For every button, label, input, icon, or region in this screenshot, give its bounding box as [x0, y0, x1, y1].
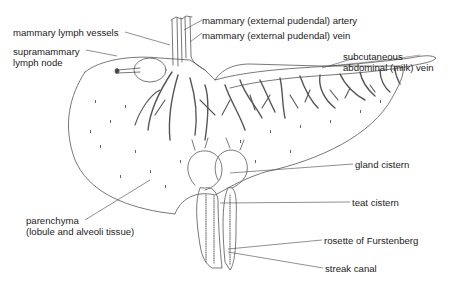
- lymph-node-shape: [134, 58, 166, 82]
- udder-outline: [68, 57, 403, 214]
- leader-lymph-node: [86, 50, 117, 56]
- label-streak-canal: streak canal: [325, 263, 377, 274]
- label-mammary-vein: mammary (external pudendal) vein: [202, 30, 350, 41]
- label-mammary-artery: mammary (external pudendal) artery: [202, 15, 357, 26]
- leader-teat-cistern: [220, 202, 350, 203]
- gland-cistern-left: [188, 151, 222, 190]
- label-mammary-lymph-vessels: mammary lymph vessels: [13, 27, 119, 38]
- leader-artery: [184, 20, 202, 30]
- label-gland-cistern: gland cistern: [355, 159, 409, 170]
- label-parenchyma: parenchyma (lobule and alveoli tissue): [26, 215, 134, 237]
- leader-vein: [190, 33, 202, 42]
- leader-streak-canal: [228, 252, 323, 268]
- vessel-trunk: [172, 17, 205, 70]
- leader-lymph-vessels: [125, 32, 170, 45]
- leader-rosette: [228, 240, 322, 249]
- label-teat-cistern: teat cistern: [352, 197, 399, 208]
- gland-cistern-right: [215, 150, 247, 188]
- label-milk-vein: subcutaneous abdominal (milk) vein: [343, 51, 434, 73]
- label-supramammary-lymph-node: supramammary lymph node: [13, 46, 80, 68]
- label-rosette-of-furstenberg: rosette of Furstenberg: [324, 235, 418, 246]
- teat-left: [197, 188, 222, 268]
